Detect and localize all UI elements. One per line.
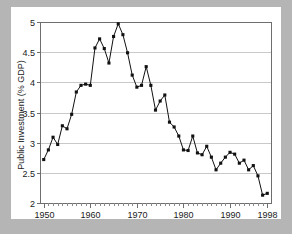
series-marker-point (135, 86, 138, 89)
series-marker-point (140, 84, 143, 87)
chart-plot-area: 195019601970198019901998 22.533.544.55 P… (11, 7, 281, 219)
x-axis-tick-labels: 195019601970198019901998 (34, 210, 277, 219)
y-tick-label: 3 (30, 139, 35, 149)
series-marker-point (131, 74, 134, 77)
series-marker-point (154, 109, 157, 112)
y-axis-title: Public Investment (% GDP) (16, 60, 26, 170)
x-tick-label: 1970 (127, 210, 147, 219)
series-marker-point (70, 113, 73, 116)
series-marker-point (210, 156, 213, 159)
series-marker-point (56, 143, 59, 146)
series-marker-point (112, 35, 115, 38)
series-marker-point (61, 124, 64, 127)
x-tick-label: 1950 (34, 210, 54, 219)
series-marker-point (173, 125, 176, 128)
series-marker-point (117, 22, 120, 25)
series-marker-point (224, 156, 227, 159)
series-marker-point (219, 162, 222, 165)
series-marker-point (182, 148, 185, 151)
series-marker-point (266, 192, 269, 195)
series-marker-point (47, 148, 50, 151)
series-marker-point (233, 153, 236, 156)
series-marker-point (228, 151, 231, 154)
series-marker-point (205, 145, 208, 148)
series-marker-point (214, 168, 217, 171)
series-marker-point (201, 153, 204, 156)
series-marker-point (187, 149, 190, 152)
series-marker-point (252, 164, 255, 167)
figure-root: 195019601970198019901998 22.533.544.55 P… (0, 0, 292, 234)
y-tick-label: 4.5 (22, 48, 35, 58)
line-chart: 195019601970198019901998 22.533.544.55 P… (11, 7, 281, 219)
series-marker-point (238, 162, 241, 165)
series-marker-point (51, 136, 54, 139)
series-marker-point (168, 121, 171, 124)
y-tick-label: 2 (30, 199, 35, 209)
x-tick-label: 1998 (257, 210, 277, 219)
series-marker-point (196, 151, 199, 154)
series-marker-point (121, 33, 124, 36)
series-marker-point (126, 51, 129, 54)
series-marker-point (79, 84, 82, 87)
y-axis-ticks (37, 23, 40, 204)
series-marker-point (93, 46, 96, 49)
series-marker-point (75, 90, 78, 93)
series-marker-point (84, 83, 87, 86)
series-marker-point (163, 93, 166, 96)
series-marker-point (177, 134, 180, 137)
x-tick-label: 1990 (220, 210, 240, 219)
series-marker-point (149, 84, 152, 87)
series-marker-point (191, 134, 194, 137)
series-marker-point (247, 168, 250, 171)
grid-lines (40, 23, 271, 204)
series-marker-point (89, 84, 92, 87)
x-tick-label: 1980 (173, 210, 193, 219)
series-marker-point (256, 174, 259, 177)
x-tick-label: 1960 (80, 210, 100, 219)
series-marker-point (107, 61, 110, 64)
series-marker-point (261, 194, 264, 197)
series-marker-point (65, 127, 68, 130)
series-markers (42, 22, 269, 196)
series-marker-point (103, 47, 106, 50)
y-tick-label: 5 (30, 18, 35, 28)
figure-card: 195019601970198019901998 22.533.544.55 P… (11, 7, 281, 219)
series-marker-point (242, 159, 245, 162)
series-marker-point (145, 65, 148, 68)
series-marker-point (42, 158, 45, 161)
series-marker-point (159, 99, 162, 102)
y-tick-label: 4 (30, 78, 35, 88)
series-marker-point (98, 37, 101, 40)
